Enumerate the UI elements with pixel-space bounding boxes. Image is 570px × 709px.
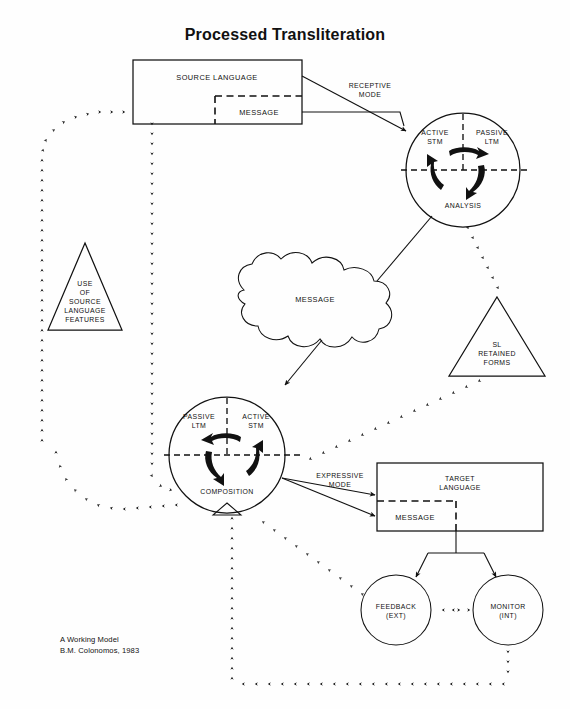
message-blob: MESSAGE — [238, 252, 391, 347]
composition-passive-ltm-line1: PASSIVE — [183, 413, 215, 420]
sl-retained-line2: RETAINED — [478, 350, 516, 357]
receptive-mode-connector: RECEPTIVE MODE — [302, 76, 406, 131]
analysis-active-stm-line2: STM — [427, 138, 443, 145]
feedback-line1: FEEDBACK — [376, 603, 416, 610]
composition-cycle-arrows — [201, 433, 263, 486]
expressive-mode-label-line1: EXPRESSIVE — [316, 472, 364, 479]
caption-line1: A Working Model — [60, 635, 119, 644]
sl-features-line3: SOURCE — [69, 298, 101, 305]
composition-circle: PASSIVE LTM ACTIVE STM COMPOSITION — [164, 397, 300, 515]
target-language-label-line1: TARGET — [445, 475, 475, 482]
trail-monitor-bottom-loop — [232, 514, 508, 684]
monitor-line2: (INT) — [499, 612, 517, 620]
analysis-passive-ltm-line2: LTM — [485, 138, 499, 145]
analysis-bottom-label: ANALYSIS — [445, 202, 481, 209]
source-language-features-triangle: USE OF SOURCE LANGUAGE FEATURES — [48, 243, 122, 330]
expressive-mode-connector: EXPRESSIVE MODE — [282, 472, 375, 516]
analysis-circle: ACTIVE STM PASSIVE LTM ANALYSIS — [401, 113, 527, 227]
caption: A Working Model B.M. Colonomos, 1983 — [60, 635, 139, 655]
source-language-box: SOURCE LANGUAGE MESSAGE — [133, 60, 302, 124]
diagram-page: Processed Transliteration SOURCE LANGUAG… — [0, 0, 570, 709]
target-language-box: TARGET LANGUAGE MESSAGE — [377, 463, 543, 531]
source-language-label: SOURCE LANGUAGE — [176, 73, 258, 82]
message-blob-label: MESSAGE — [295, 295, 335, 304]
receptive-mode-label-line2: MODE — [359, 91, 381, 98]
trail-outer-feedback-loop — [42, 112, 176, 509]
trail-sl-forms-to-composition — [306, 381, 479, 461]
target-message-label: MESSAGE — [395, 513, 435, 522]
composition-bottom-label: COMPOSITION — [200, 488, 253, 495]
trail-feedback-to-composition — [259, 519, 362, 594]
sl-retained-line3: FORMS — [484, 359, 511, 366]
sl-features-line1: USE — [77, 280, 92, 287]
sl-features-line2: OF — [80, 289, 90, 296]
composition-active-stm-line2: STM — [248, 422, 264, 429]
monitor-circle: MONITOR (INT) — [473, 575, 543, 645]
trail-analysis-to-sl-forms — [468, 228, 500, 291]
caption-line2: B.M. Colonomos, 1983 — [60, 646, 139, 655]
analysis-to-message-line — [377, 216, 432, 281]
analysis-active-stm-line1: ACTIVE — [421, 129, 448, 136]
composition-active-stm-line1: ACTIVE — [242, 413, 269, 420]
trail-source-down-to-composition — [152, 124, 175, 491]
page-title: Processed Transliteration — [185, 26, 386, 43]
target-to-feedback-monitor-fork — [416, 531, 496, 577]
feedback-line2: (EXT) — [386, 612, 406, 620]
sl-features-line4: LANGUAGE — [64, 307, 106, 314]
analysis-cycle-arrows — [427, 147, 489, 200]
processed-transliteration-diagram: Processed Transliteration SOURCE LANGUAG… — [0, 0, 570, 709]
sl-features-line5: FEATURES — [65, 316, 104, 323]
source-message-label: MESSAGE — [239, 108, 279, 117]
receptive-mode-label-line1: RECEPTIVE — [349, 82, 392, 89]
target-language-label-line2: LANGUAGE — [439, 484, 481, 491]
expressive-mode-label-line2: MODE — [329, 481, 351, 488]
analysis-passive-ltm-line1: PASSIVE — [476, 129, 508, 136]
composition-passive-ltm-line2: LTM — [192, 422, 206, 429]
sl-retained-line1: SL — [492, 341, 501, 348]
feedback-circle: FEEDBACK (EXT) — [361, 575, 431, 645]
monitor-line1: MONITOR — [490, 603, 525, 610]
sl-retained-forms-triangle: SL RETAINED FORMS — [449, 297, 545, 376]
